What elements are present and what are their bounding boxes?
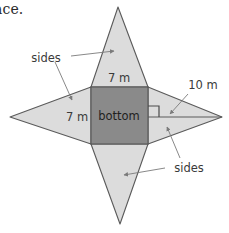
label-sides-bottom-right: sides xyxy=(174,161,204,175)
bottom-triangle-side xyxy=(91,144,148,224)
label-left-width: 7 m xyxy=(66,110,88,124)
label-bottom-face: bottom xyxy=(98,109,140,123)
pyramid-net-diagram: sides 7 m 7 m bottom 10 m sides xyxy=(0,0,229,233)
leader-sides-to-left-triangle xyxy=(55,62,72,100)
label-sides-top-left: sides xyxy=(31,51,61,65)
figure-stage: ace. sides 7 m 7 m xyxy=(0,0,229,233)
label-slant-height: 10 m xyxy=(188,78,218,92)
label-top-width: 7 m xyxy=(108,71,130,85)
